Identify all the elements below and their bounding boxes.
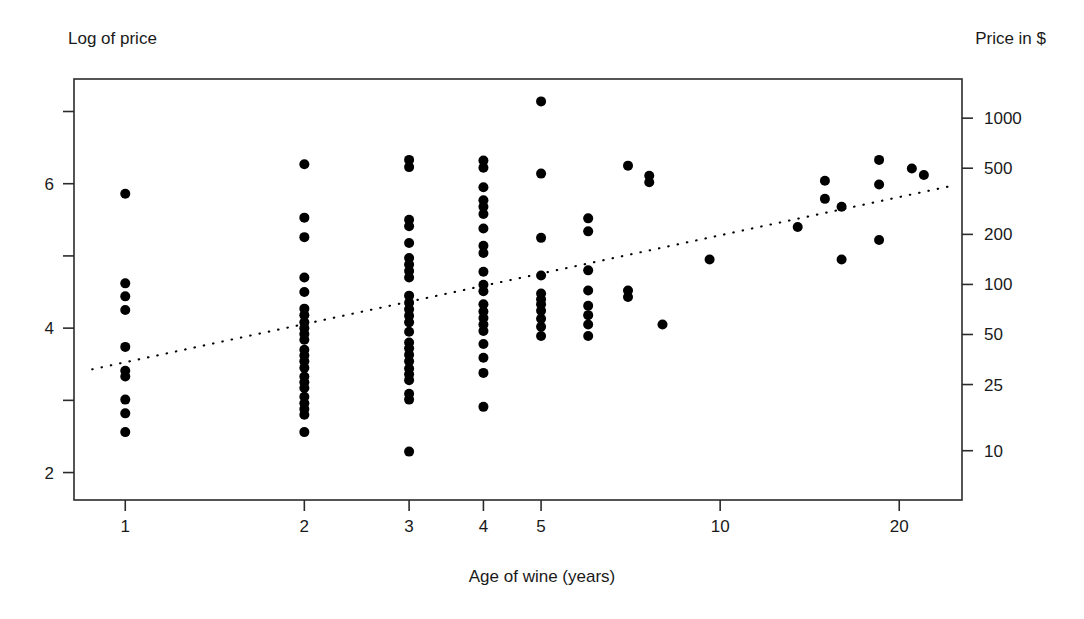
data-point xyxy=(536,331,546,341)
y-axis-ticks: 246 xyxy=(45,111,74,482)
data-point xyxy=(874,235,884,245)
data-point xyxy=(478,368,488,378)
data-point xyxy=(299,213,309,223)
data-point xyxy=(583,301,593,311)
x-tick-label: 10 xyxy=(711,517,730,536)
x-tick-label: 1 xyxy=(121,517,130,536)
scatter-plot-figure: Log of price Price in $ Age of wine (yea… xyxy=(0,0,1084,619)
data-point xyxy=(299,232,309,242)
data-point xyxy=(404,238,414,248)
x-tick-label: 5 xyxy=(536,517,545,536)
data-point xyxy=(583,331,593,341)
data-point xyxy=(299,335,309,345)
secondary-y-tick-label: 100 xyxy=(984,275,1012,294)
data-point xyxy=(874,155,884,165)
secondary-y-axis-ticks: 1025501002005001000 xyxy=(962,109,1022,461)
data-point xyxy=(478,182,488,192)
secondary-y-tick-label: 50 xyxy=(984,325,1003,344)
data-point xyxy=(623,161,633,171)
data-point xyxy=(536,169,546,179)
data-point xyxy=(404,221,414,231)
data-point xyxy=(536,96,546,106)
x-tick-label: 4 xyxy=(479,517,488,536)
data-point xyxy=(120,278,130,288)
data-point xyxy=(536,233,546,243)
data-point xyxy=(404,447,414,457)
data-point xyxy=(837,255,847,265)
y-tick-label: 6 xyxy=(45,175,54,194)
data-point xyxy=(404,317,414,327)
secondary-y-tick-label: 25 xyxy=(984,376,1003,395)
data-point xyxy=(478,209,488,219)
x-axis-title: Age of wine (years) xyxy=(0,567,1084,587)
data-point xyxy=(120,189,130,199)
data-point xyxy=(478,353,488,363)
data-point xyxy=(919,170,929,180)
data-point xyxy=(583,310,593,320)
data-point xyxy=(874,179,884,189)
data-point xyxy=(404,162,414,172)
data-point xyxy=(299,273,309,283)
data-point xyxy=(478,248,488,258)
data-point xyxy=(583,286,593,296)
data-point xyxy=(404,273,414,283)
y-tick-label: 2 xyxy=(45,464,54,483)
data-point xyxy=(907,164,917,174)
data-point xyxy=(478,326,488,336)
x-tick-label: 2 xyxy=(300,517,309,536)
data-point xyxy=(478,267,488,277)
data-point xyxy=(820,194,830,204)
data-point xyxy=(478,163,488,173)
data-point xyxy=(583,213,593,223)
data-point xyxy=(404,375,414,385)
secondary-y-tick-label: 200 xyxy=(984,225,1012,244)
x-tick-label: 20 xyxy=(890,517,909,536)
secondary-y-tick-label: 1000 xyxy=(984,109,1022,128)
data-point xyxy=(299,410,309,420)
data-point xyxy=(120,305,130,315)
data-point xyxy=(120,372,130,382)
secondary-y-tick-label: 500 xyxy=(984,159,1012,178)
secondary-y-tick-label: 10 xyxy=(984,442,1003,461)
x-axis-ticks: 123451020 xyxy=(121,500,909,536)
regression-trendline xyxy=(92,186,951,369)
data-point xyxy=(644,177,654,187)
x-tick-label: 3 xyxy=(404,517,413,536)
data-point xyxy=(536,322,546,332)
plot-frame xyxy=(74,79,962,500)
data-point xyxy=(478,339,488,349)
data-point xyxy=(478,286,488,296)
data-point xyxy=(299,363,309,373)
data-point xyxy=(837,202,847,212)
data-point xyxy=(299,427,309,437)
data-point xyxy=(536,270,546,280)
data-point xyxy=(299,287,309,297)
data-point xyxy=(658,320,668,330)
secondary-y-axis-title: Price in $ xyxy=(975,29,1046,49)
data-point xyxy=(478,223,488,233)
data-point xyxy=(120,395,130,405)
data-point xyxy=(705,255,715,265)
data-point xyxy=(299,159,309,169)
data-point xyxy=(404,327,414,337)
data-point xyxy=(120,427,130,437)
data-point xyxy=(299,383,309,393)
data-point xyxy=(623,292,633,302)
data-point xyxy=(583,265,593,275)
y-axis-title: Log of price xyxy=(68,29,157,49)
data-point xyxy=(793,222,803,232)
data-point xyxy=(478,402,488,412)
data-point xyxy=(404,395,414,405)
data-point xyxy=(583,226,593,236)
data-point xyxy=(120,342,130,352)
data-point xyxy=(583,320,593,330)
data-point xyxy=(820,176,830,186)
data-point xyxy=(120,291,130,301)
y-tick-label: 4 xyxy=(45,319,54,338)
data-point xyxy=(120,408,130,418)
data-point-series xyxy=(120,96,929,456)
plot-canvas: 123451020 246 1025501002005001000 xyxy=(0,0,1084,619)
